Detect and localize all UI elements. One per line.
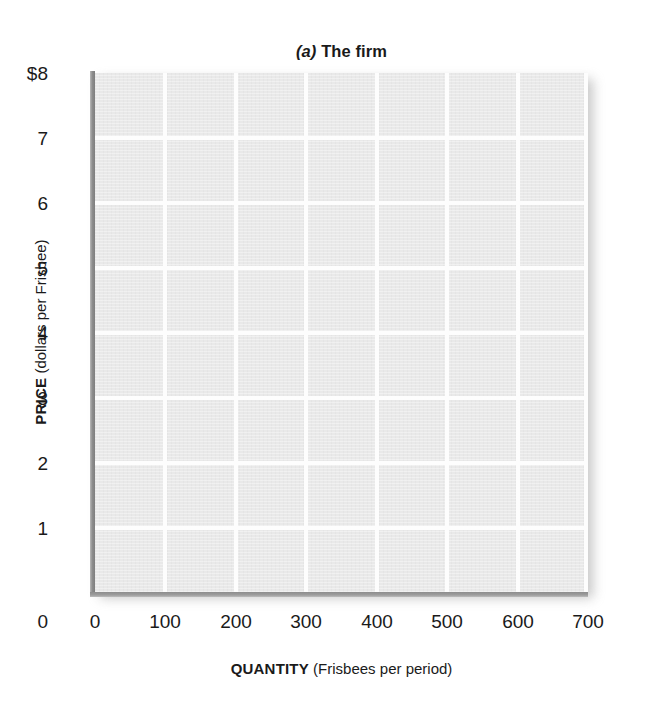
gridline-vertical-300 [304,73,308,592]
x-axis-tick-300: 300 [266,612,346,631]
gridline-horizontal-7 [95,136,588,140]
y-axis-title-unit: (dollars per Frisbee) [32,239,49,373]
y-axis-bar [90,71,95,594]
x-axis-tick-700: 700 [548,612,628,631]
y-axis-title-emphasis: PRICE [32,378,49,425]
panel-letter: (a) [296,42,316,60]
gridline-vertical-100 [163,73,167,592]
x-axis-tick-500: 500 [407,612,487,631]
x-axis-bar [90,592,588,597]
x-axis-title: QUANTITY (Frisbees per period) [95,660,588,677]
y-axis-title: PRICE (dollars per Frisbee) [28,73,54,592]
x-axis-title-emphasis: QUANTITY [231,660,309,677]
gridline-vertical-200 [234,73,238,592]
gridline-horizontal-4 [95,331,588,335]
y-axis-tick-0: 0 [37,612,48,631]
gridline-horizontal-2 [95,461,588,465]
x-axis-tick-0: 0 [55,612,135,631]
gridline-horizontal-5 [95,266,588,270]
chart-title: (a) The firm [95,42,588,61]
gridline-horizontal-1 [95,526,588,530]
chart-title-text: The firm [321,42,387,60]
gridline-horizontal-3 [95,396,588,400]
gridline-vertical-500 [445,73,449,592]
x-axis-tick-100: 100 [125,612,205,631]
gridline-vertical-600 [516,73,520,592]
gridline-vertical-400 [375,73,379,592]
x-axis-tick-600: 600 [478,612,558,631]
figure-panel-a-the-firm: (a) The firm $8 7 6 5 4 3 2 1 0 0 100 20… [0,0,645,721]
x-axis-title-unit: (Frisbees per period) [313,660,452,677]
x-axis-tick-200: 200 [196,612,276,631]
plot-area-wrapper [95,73,588,592]
gridline-vertical-700 [584,73,588,592]
plot-grid[interactable] [95,73,588,592]
x-axis-tick-400: 400 [337,612,417,631]
gridline-horizontal-6 [95,201,588,205]
